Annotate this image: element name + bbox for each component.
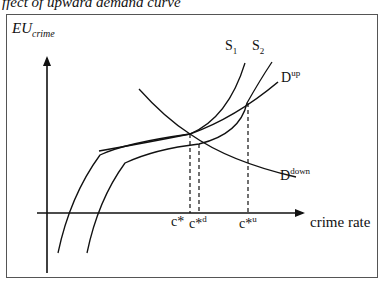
c-star-label: c* bbox=[171, 214, 184, 230]
d-down-label: Ddown bbox=[280, 166, 310, 184]
x-axis-label: crime rate bbox=[310, 214, 370, 231]
s1-curve bbox=[58, 63, 245, 253]
diagram-canvas bbox=[0, 0, 381, 283]
c-star-d-label: c*d bbox=[189, 214, 207, 232]
c-star-u-label: c*u bbox=[239, 214, 257, 232]
s2-label: S2 bbox=[252, 38, 264, 56]
d-up-label: Dup bbox=[281, 68, 300, 86]
s1-label: S1 bbox=[225, 38, 237, 56]
d-up-curve bbox=[99, 82, 278, 151]
y-axis-label: EUcrime bbox=[12, 20, 55, 39]
d-down-curve bbox=[139, 89, 296, 177]
